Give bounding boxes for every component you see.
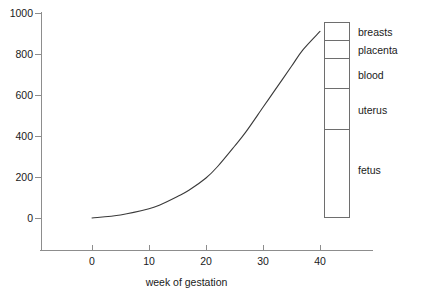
legend-segment-breasts (325, 23, 349, 41)
x-tick-20 (206, 245, 207, 251)
y-tick-400 (35, 136, 41, 137)
y-tick-800 (35, 54, 41, 55)
y-tick-600 (35, 95, 41, 96)
x-tick-label-10: 10 (129, 256, 169, 267)
x-tick-label-20: 20 (186, 256, 226, 267)
y-tick-label-0-wrap: 0 (0, 213, 33, 224)
y-tick-label-1000: 1000 (3, 8, 33, 19)
y-tick-label-0: 0 (3, 213, 33, 224)
legend-segment-fetus (325, 130, 349, 217)
legend-label-fetus: fetus (358, 165, 381, 176)
x-axis-title: week of gestation (0, 277, 373, 288)
y-tick-label-200: 200 (3, 172, 33, 183)
y-tick-label-800: 800 (3, 49, 33, 60)
legend-label-uterus: uterus (358, 105, 387, 116)
x-tick-label-0: 0 (72, 256, 112, 267)
y-tick-label-200-wrap: 200 (0, 172, 33, 183)
composition-stacked-bar (324, 22, 350, 218)
x-tick-label-30: 30 (243, 256, 283, 267)
y-tick-label-400-wrap: 400 (0, 131, 33, 142)
legend-label-placenta: placenta (358, 45, 398, 56)
x-tick-10 (149, 245, 150, 251)
y-tick-label-800-wrap: 800 (0, 49, 33, 60)
y-tick-200 (35, 177, 41, 178)
legend-label-breasts: breasts (358, 27, 392, 38)
x-tick-40 (320, 245, 321, 251)
y-tick-label-1000-wrap: 1000 (0, 8, 33, 19)
y-axis-line (41, 12, 42, 251)
y-tick-0 (35, 218, 41, 219)
x-tick-0 (92, 245, 93, 251)
y-tick-label-400: 400 (3, 131, 33, 142)
gestation-weight-chart: 1000 800 600 400 200 0 0 10 20 30 40 wee… (0, 0, 423, 302)
weight-gain-curve-path (92, 31, 320, 218)
y-tick-label-600-wrap: 600 (0, 90, 33, 101)
legend-label-blood: blood (358, 70, 384, 81)
x-tick-label-40: 40 (300, 256, 340, 267)
y-tick-label-600: 600 (3, 90, 33, 101)
legend-segment-uterus (325, 89, 349, 130)
x-tick-30 (263, 245, 264, 251)
y-tick-1000 (35, 13, 41, 14)
legend-segment-placenta (325, 41, 349, 59)
legend-segment-blood (325, 59, 349, 89)
